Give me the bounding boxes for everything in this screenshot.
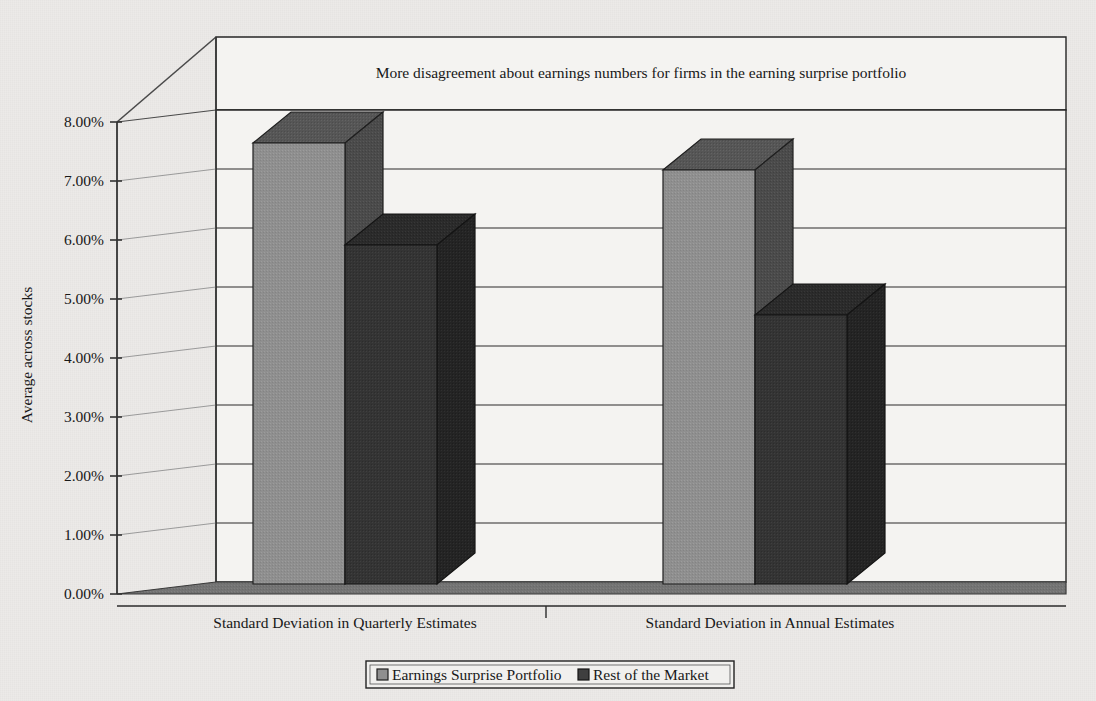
value-axis-ticks: [110, 122, 122, 594]
ytick-label: 6.00%: [64, 231, 104, 248]
ytick-label: 3.00%: [64, 408, 104, 425]
legend-swatch-icon: [377, 669, 388, 680]
ytick-label: 2.00%: [64, 467, 104, 484]
ytick-label: 1.00%: [64, 526, 104, 543]
category-label-annual: Standard Deviation in Annual Estimates: [646, 614, 895, 631]
category-label-quarterly: Standard Deviation in Quarterly Estimate…: [213, 614, 476, 631]
y-axis-title: Average across stocks: [18, 287, 35, 424]
ytick-label: 8.00%: [64, 113, 104, 130]
value-axis-labels: 8.00% 7.00% 6.00% 5.00% 4.00% 3.00% 2.00…: [64, 113, 104, 602]
legend-label: Earnings Surprise Portfolio: [392, 666, 562, 683]
legend-swatch-icon: [578, 669, 589, 680]
legend-item-earnings-surprise-portfolio[interactable]: Earnings Surprise Portfolio: [377, 666, 562, 683]
ytick-label: 4.00%: [64, 349, 104, 366]
plot-depth-edges: [117, 37, 216, 594]
legend-label: Rest of the Market: [593, 666, 709, 683]
legend-item-rest-of-the-market[interactable]: Rest of the Market: [578, 666, 709, 683]
ytick-label: 0.00%: [64, 585, 104, 602]
page-title: More disagreement about earnings numbers…: [376, 64, 907, 81]
ytick-label: 7.00%: [64, 172, 104, 189]
bar-quarterly-rest-of-market[interactable]: [345, 214, 475, 584]
bar-annual-rest-of-market[interactable]: [755, 284, 885, 584]
chart-figure: 8.00% 7.00% 6.00% 5.00% 4.00% 3.00% 2.00…: [0, 0, 1096, 701]
legend: Earnings Surprise Portfolio Rest of the …: [366, 661, 734, 688]
ytick-label: 5.00%: [64, 290, 104, 307]
